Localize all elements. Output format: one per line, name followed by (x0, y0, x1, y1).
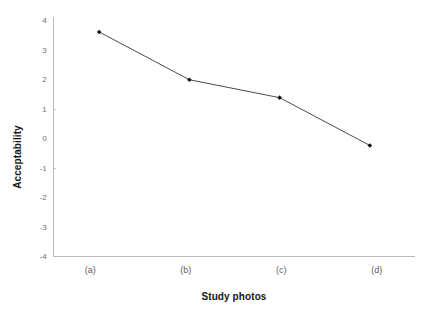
y-tick-label: -3 (39, 222, 47, 231)
x-tick-label: (b) (180, 265, 191, 275)
y-tick-label: 1 (42, 104, 47, 113)
data-point-marker (97, 30, 102, 35)
y-axis-title: Acceptability (12, 92, 23, 222)
y-tick-label: -2 (39, 193, 47, 202)
y-tick-label: -1 (39, 163, 47, 172)
y-tick-label: 3 (42, 45, 47, 54)
chart-figure: 4 3 2 1 0 -1 -2 -3 -4 Acceptability (a) … (0, 0, 431, 313)
y-axis-ticks: 4 3 2 1 0 -1 -2 -3 -4 (0, 0, 53, 313)
x-tick-label: (c) (276, 265, 287, 275)
plot-area (53, 17, 415, 257)
y-tick-label: 0 (42, 134, 47, 143)
x-tick-label: (a) (85, 265, 96, 275)
data-point-marker (187, 77, 192, 82)
y-tick-label: 4 (42, 16, 47, 25)
series-line-chart (54, 17, 415, 256)
series-line (99, 32, 370, 146)
data-point-marker (368, 143, 373, 148)
data-point-marker (277, 95, 282, 100)
y-tick-label: 2 (42, 75, 47, 84)
y-tick-label: -4 (39, 252, 47, 261)
x-tick-label: (d) (371, 265, 382, 275)
x-axis-title: Study photos (53, 291, 415, 302)
